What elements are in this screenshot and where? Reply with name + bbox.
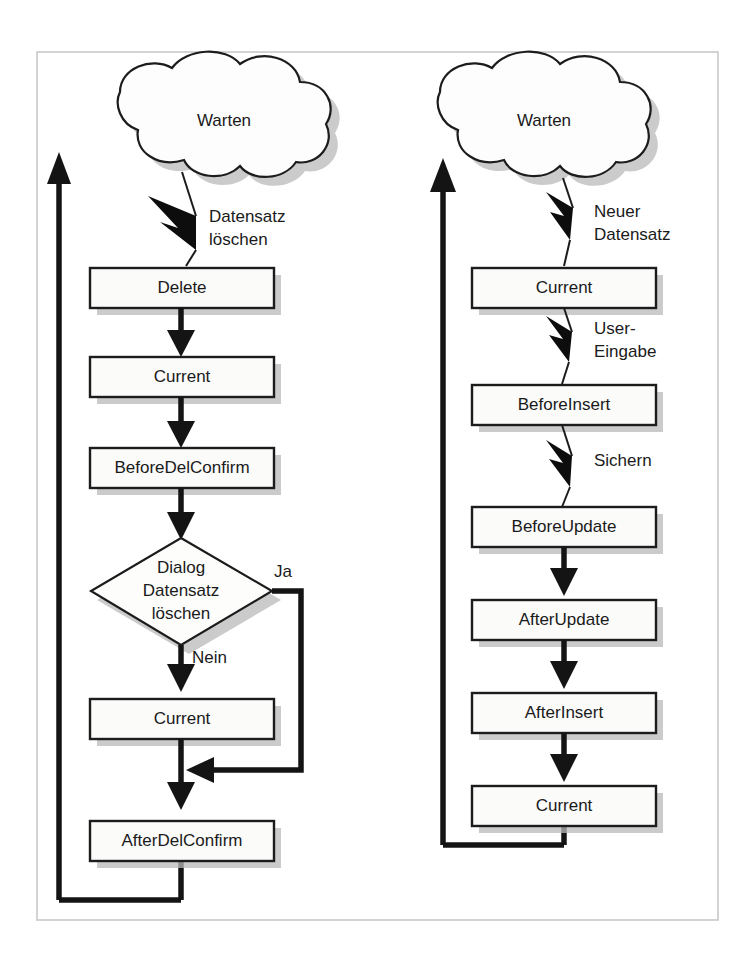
left-node-beforedelconfirm-label: BeforeDelConfirm xyxy=(114,458,249,477)
left-bolt-tail-bottom xyxy=(186,250,196,266)
left-node-dialog-label-line1: Dialog xyxy=(157,558,205,577)
left-arrow-2-head xyxy=(167,421,195,448)
right-cloud-label: Warten xyxy=(517,111,571,130)
right-trigger1-label-line1: Neuer xyxy=(594,202,641,221)
right-return-arrowhead xyxy=(430,158,456,192)
right-node-current1-label: Current xyxy=(536,278,593,297)
left-ja-branch-arrowhead xyxy=(186,757,214,783)
right-node-beforeinsert-label: BeforeInsert xyxy=(518,395,611,414)
left-bolt-glyph xyxy=(148,196,196,250)
right-node-afterupdate-label: AfterUpdate xyxy=(519,610,610,629)
right-trigger2-label-line1: User- xyxy=(594,319,636,338)
left-node-dialog-label-line3: löschen xyxy=(152,604,211,623)
left-node-dialog-label-line2: Datensatz xyxy=(143,581,220,600)
left-node-current1-label: Current xyxy=(154,367,211,386)
left-trigger-label-line2: löschen xyxy=(209,230,268,249)
left-cloud-label: Warten xyxy=(197,111,251,130)
left-arrow-1-head xyxy=(167,330,195,357)
flowchart-canvas: Warten Datensatz löschen Delete Current xyxy=(0,0,754,958)
right-bolt1-tail-bottom xyxy=(564,240,570,266)
right-flow-insert: Warten Neuer Datensatz Current User- Ein… xyxy=(430,52,671,845)
right-bolt1-glyph xyxy=(546,192,573,240)
right-arrow-2-head xyxy=(550,661,578,689)
right-trigger3-label: Sichern xyxy=(594,451,652,470)
right-trigger1-label-line2: Datensatz xyxy=(594,225,671,244)
left-bolt-tail-top xyxy=(182,172,196,216)
left-node-afterdelconfirm-label: AfterDelConfirm xyxy=(122,831,243,850)
left-node-current2-label: Current xyxy=(154,709,211,728)
left-arrow-3-head xyxy=(167,512,195,540)
left-merge-arrowhead xyxy=(167,782,195,810)
right-arrow-3-head xyxy=(550,754,578,782)
right-trigger2-label-line2: Eingabe xyxy=(594,342,656,361)
left-nein-arrowhead xyxy=(167,664,195,692)
right-bolt2-tail-bottom xyxy=(562,362,569,384)
right-arrow-1-head xyxy=(550,568,578,596)
left-node-delete-label: Delete xyxy=(157,278,206,297)
left-trigger-label-line1: Datensatz xyxy=(209,207,286,226)
left-flow-delete: Warten Datensatz löschen Delete Current xyxy=(47,52,340,900)
right-node-current2-label: Current xyxy=(536,796,593,815)
right-bolt3-tail-bottom xyxy=(562,487,570,507)
left-label-ja: Ja xyxy=(274,562,293,581)
right-node-beforeupdate-label: BeforeUpdate xyxy=(512,517,617,536)
left-return-arrowhead xyxy=(47,152,71,184)
diagram-page: Warten Datensatz löschen Delete Current xyxy=(0,0,754,958)
right-node-afterinsert-label: AfterInsert xyxy=(525,703,604,722)
left-label-nein: Nein xyxy=(192,648,227,667)
